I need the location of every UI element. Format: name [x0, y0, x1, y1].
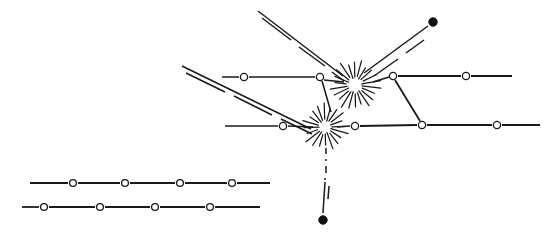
node-open-circle: [316, 73, 323, 80]
node-open-circle: [462, 72, 469, 79]
chain-upper-left-row: [30, 180, 270, 187]
starburst-ray: [319, 135, 322, 147]
double-line-strand: [323, 182, 325, 213]
double-line-burst-upper-to-filled-dot: [364, 18, 437, 76]
starburst-ray: [335, 83, 346, 84]
starburst-ray: [324, 103, 325, 119]
starburst-ray: [330, 86, 347, 89]
double-line-strand: [406, 40, 424, 53]
node-open-circle: [229, 180, 236, 187]
dash-dot-line-burst-lower-to-filled-dot: [319, 148, 329, 224]
diagram-canvas: [0, 0, 552, 235]
double-line-strand: [262, 18, 291, 40]
double-line-strand: [364, 26, 428, 73]
diagram-stage: [0, 0, 552, 235]
chain-segment: [360, 125, 417, 126]
node-open-circle: [177, 180, 184, 187]
node-open-circle: [70, 180, 77, 187]
node-open-circle: [122, 180, 129, 187]
starburst-ray: [304, 127, 319, 128]
double-line-strand: [328, 186, 329, 199]
node-open-circle: [207, 204, 214, 211]
edge-to-burst-upper: [324, 80, 344, 82]
starburst-ray: [357, 61, 361, 76]
node-open-circle: [97, 204, 104, 211]
double-line-strand: [299, 47, 325, 66]
starburst-vertex-upper: [330, 61, 380, 108]
chain-lower-left-row: [22, 204, 260, 211]
node-open-circle: [351, 122, 358, 129]
double-line-strand: [186, 73, 225, 92]
chain-middle-lower: [225, 121, 540, 129]
double-line-strand: [258, 11, 343, 76]
edge-to-burst-lower: [322, 81, 331, 112]
starburst-ray: [357, 93, 361, 104]
double-line-upper-left-to-burst-upper: [258, 11, 344, 81]
filled-dot-endpoint-lower: [319, 216, 327, 224]
node-open-circle: [418, 121, 425, 128]
starburst-vertex-lower: [303, 103, 348, 149]
starburst-ray: [362, 86, 381, 88]
starburst-ray: [362, 81, 381, 84]
chain-right-upper: [373, 72, 512, 121]
chain-segment: [288, 126, 313, 127]
node-open-circle: [389, 72, 396, 79]
node-open-circle: [279, 122, 286, 129]
node-open-circle: [41, 204, 48, 211]
node-open-circle: [152, 204, 159, 211]
chain-middle-upper: [222, 73, 344, 112]
edge-diagonal-right: [395, 80, 420, 121]
node-open-circle: [493, 121, 500, 128]
starburst-ray: [334, 88, 348, 95]
node-open-circle: [240, 73, 247, 80]
filled-dot-endpoint-upper: [429, 18, 437, 26]
double-line-strand: [234, 96, 272, 115]
